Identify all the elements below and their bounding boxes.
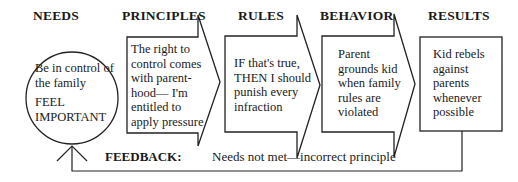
- feedback-label: FEEDBACK:: [105, 149, 182, 165]
- feedback-text: Needs not met—incorrect principle: [212, 149, 396, 165]
- needs-text-control: Be in control of the family: [35, 61, 114, 90]
- header-principles: PRINCIPLES: [122, 8, 206, 24]
- header-behavior: BEHAVIOR: [320, 8, 393, 24]
- header-results: RESULTS: [428, 8, 490, 24]
- needs-text-feel-important: FEEL IMPORTANT: [35, 95, 106, 124]
- results-text: Kid rebels against parents whenever poss…: [433, 47, 485, 120]
- behavior-text: Parent grounds kid when family rules are…: [338, 47, 401, 120]
- principles-text: The right to control comes with parent- …: [131, 42, 204, 129]
- header-rules: RULES: [238, 8, 284, 24]
- rules-text: IF that's true, THEN I should punish eve…: [234, 56, 311, 114]
- header-needs: NEEDS: [33, 8, 79, 24]
